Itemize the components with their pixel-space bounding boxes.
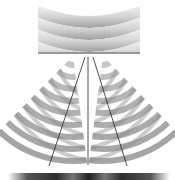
incoming-waves (30, 2, 148, 64)
double-slit-diagram (0, 0, 175, 180)
interference-screen (8, 173, 170, 180)
